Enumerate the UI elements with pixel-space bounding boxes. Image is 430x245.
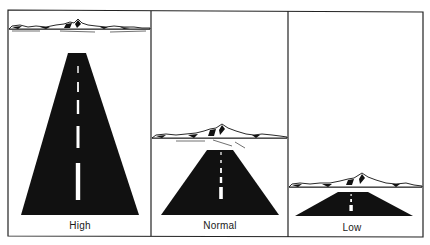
label-low: Low (312, 222, 392, 233)
label-normal: Normal (180, 220, 260, 231)
runway-perspective-figure: High Normal Low (0, 0, 430, 245)
label-high: High (40, 220, 120, 231)
figure-canvas (0, 0, 430, 245)
